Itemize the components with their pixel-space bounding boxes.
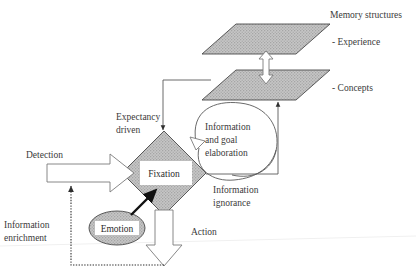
label-expectancy-driven-line2: driven [116,125,141,135]
label-memory-experience: - Experience [332,37,380,47]
label-memory-concepts: - Concepts [332,83,373,93]
label-information-enrichment: Information [4,220,50,230]
label-information-and-goal-line2: and goal [205,135,238,145]
label-information-and-goal-line3: elaboration [205,148,248,158]
figure-root: Memory structures - Experience - Concept… [0,0,416,276]
label-detection: Detection [26,150,63,160]
action-arrow [146,210,182,266]
memory-layer-experience [202,24,330,54]
label-memory-structures: Memory structures [330,10,402,20]
label-information-ignorance: Information [213,185,259,195]
label-information-ignorance-line2: ignorance [213,198,250,208]
label-information-and-goal: Information [205,122,251,132]
label-fixation: Fixation [148,169,180,179]
label-information-enrichment-line2: enrichment [4,233,47,243]
scan-artifact-line [0,236,416,246]
connector-expectancy-driven [163,80,211,130]
diagram-canvas: Memory structures - Experience - Concept… [0,0,416,276]
label-expectancy-driven: Expectancy [116,112,161,122]
label-emotion: Emotion [101,224,134,234]
label-action: Action [191,227,217,237]
